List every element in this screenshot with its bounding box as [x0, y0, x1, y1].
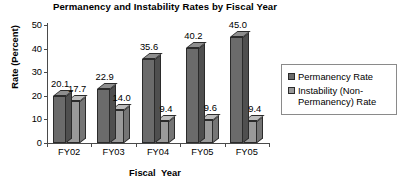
bar-front-face [53, 96, 66, 143]
bar-value-label: 9.4 [248, 103, 261, 114]
bar-value-label: 40.2 [184, 30, 202, 41]
bar-side-face [124, 105, 130, 143]
bar-front-face [186, 48, 199, 143]
x-tick-label: FY04 [147, 147, 169, 157]
bar-side-face [66, 91, 72, 143]
bar-value-label: 45.0 [229, 19, 247, 30]
y-axis-title-container: Rate (Percent) [9, 7, 23, 107]
y-tick-mark [44, 96, 48, 97]
y-tick-label: 10 [32, 114, 42, 124]
x-tick-label: FY05 [191, 147, 213, 157]
chart-title: Permanency and Instability Rates by Fisc… [30, 1, 300, 12]
x-tick-label: FY02 [58, 147, 80, 157]
bar-side-face [213, 116, 219, 143]
bar-value-label: 9.4 [159, 103, 172, 114]
x-tick-mark [91, 143, 92, 147]
legend-item-instability-rate[interactable]: Instability (Non-Permanency) Rate [288, 85, 392, 107]
bar-value-label: 35.6 [140, 41, 158, 52]
bar-side-face [243, 32, 249, 143]
bar-side-face [257, 116, 263, 143]
legend-swatch-icon [288, 87, 295, 94]
bar-value-label: 9.6 [204, 102, 217, 113]
x-tick-mark [180, 143, 181, 147]
y-tick-label: 20 [32, 91, 42, 101]
x-axis-title: Fiscal Year [60, 167, 250, 178]
bar-front-face [230, 37, 243, 143]
y-tick-label: 0 [37, 138, 42, 148]
bar-side-face [80, 97, 86, 143]
x-tick-label: FY05 [236, 147, 258, 157]
y-tick-mark [44, 25, 48, 26]
x-tick-mark [225, 143, 226, 147]
x-axis-line [47, 143, 270, 144]
bar-permanency-fy02-0 [53, 96, 66, 143]
y-tick-label: 30 [32, 67, 42, 77]
legend-label: Permanency Rate [298, 71, 373, 82]
y-axis-line [47, 23, 48, 144]
y-axis-title: Rate (Percent) [9, 7, 20, 107]
y-tick-label: 40 [32, 44, 42, 54]
x-tick-label: FY03 [102, 147, 124, 157]
bar-permanency-fy05-4 [230, 37, 243, 143]
x-tick-mark [47, 143, 48, 147]
y-tick-mark [44, 72, 48, 73]
y-tick-label: 50 [32, 20, 42, 30]
bar-side-face [199, 43, 205, 143]
x-tick-mark [269, 143, 270, 147]
bar-value-label: 14.0 [112, 92, 130, 103]
y-tick-mark [44, 119, 48, 120]
chart-legend: Permanency Rate Instability (Non-Permane… [281, 64, 397, 115]
bar-permanency-fy04-2 [142, 59, 155, 143]
bar-front-face [142, 59, 155, 143]
legend-item-permanency-rate[interactable]: Permanency Rate [288, 71, 392, 82]
bar-value-label: 17.7 [68, 83, 86, 94]
bar-side-face [155, 54, 161, 143]
legend-label: Instability (Non-Permanency) Rate [298, 85, 392, 107]
bar-front-face [97, 89, 110, 143]
bar-permanency-fy03-1 [97, 89, 110, 143]
bar-value-label: 22.9 [95, 71, 113, 82]
bar-value-label: 20.1 [51, 78, 69, 89]
plot-area: 01020304050 FY02FY03FY04FY05FY05 20.117.… [47, 23, 269, 143]
chart-figure: Permanency and Instability Rates by Fisc… [0, 0, 403, 190]
legend-swatch-icon [288, 73, 295, 80]
y-tick-mark [44, 49, 48, 50]
x-tick-mark [136, 143, 137, 147]
bar-permanency-fy05-3 [186, 48, 199, 143]
